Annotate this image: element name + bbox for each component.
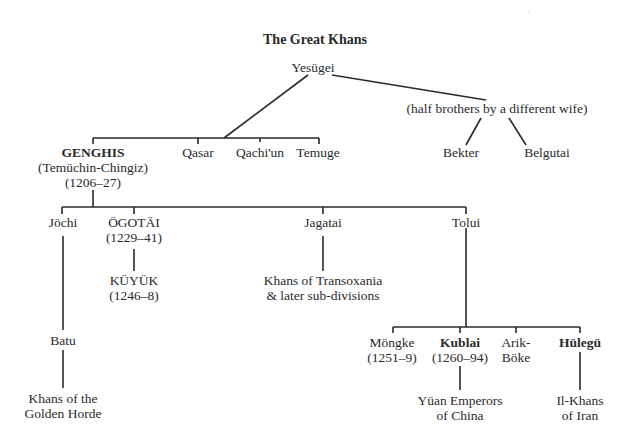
node-ogotai: ÖGOTÄI (1229–41) [106,215,162,245]
node-label: Möngke [367,335,417,350]
node-mongke: Möngke (1251–9) [367,335,417,365]
node-label: Bekter [443,145,479,160]
node-reign: (1229–41) [106,230,162,245]
node-label: GENGHIS [38,145,148,160]
node-label-line2: of Iran [556,408,603,423]
node-jagatai: Jagatai [304,215,341,230]
node-label: Qasar [182,145,213,160]
node-label: Hülegü [559,335,601,350]
node-half-brothers: (half brothers by a different wife) [407,101,588,116]
node-label: Tolui [452,215,480,230]
node-label: ÖGOTÄI [106,215,162,230]
node-label: (half brothers by a different wife) [407,101,588,116]
node-yuan: Yüan Emperors of China [417,393,502,423]
line-yesugei-to-half-brothers [332,75,486,100]
node-label-line2: of China [417,408,502,423]
node-label: KÜYÜK [109,273,159,288]
node-kuyuk: KÜYÜK (1246–8) [109,273,159,303]
node-label: Qachi'un [236,145,284,160]
line-yesugei-to-brothers [224,75,308,138]
node-alt-name: (Temüchin-Chingiz) [38,160,148,175]
node-label: Jagatai [304,215,341,230]
node-arik-boke: Arik- Böke [501,335,530,365]
node-label: Kublai [432,335,488,350]
node-reign: (1260–94) [432,350,488,365]
node-transoxania: Khans of Transoxania & later sub-divisio… [264,273,383,303]
node-label-line2: Golden Horde [25,406,102,421]
node-label-line2: & later sub-divisions [264,288,383,303]
line-to-bekter [466,118,481,145]
node-qachiun: Qachi'un [236,145,284,160]
node-label: Jöchi [49,215,78,230]
node-label-line1: Il-Khans [556,393,603,408]
node-golden-horde: Khans of the Golden Horde [25,391,102,421]
node-il-khans: Il-Khans of Iran [556,393,603,423]
node-label: Yesügei [292,60,335,75]
node-reign: (1206–27) [38,175,148,190]
scan-speck [528,11,529,12]
node-label-line1: Arik- [501,335,530,350]
node-label: Batu [50,333,76,348]
node-genghis: GENGHIS (Temüchin-Chingiz) (1206–27) [38,145,148,190]
node-label-line2: Böke [501,350,530,365]
node-label-line1: Yüan Emperors [417,393,502,408]
node-kublai: Kublai (1260–94) [432,335,488,365]
node-reign: (1251–9) [367,350,417,365]
node-reign: (1246–8) [109,288,159,303]
node-belgutai: Belgutai [524,145,570,160]
diagram-title: The Great Khans [263,32,367,48]
node-bekter: Bekter [443,145,479,160]
node-qasar: Qasar [182,145,213,160]
line-to-belgutai [509,118,526,145]
node-hulegu: Hülegü [559,335,601,350]
node-label-line1: Khans of the [25,391,102,406]
family-tree-diagram: The Great Khans Yesügei (half brothers b… [0,0,630,443]
node-batu: Batu [50,333,76,348]
node-tolui: Tolui [452,215,480,230]
node-label: Temuge [296,145,339,160]
node-label: Belgutai [524,145,570,160]
node-yesugei: Yesügei [292,60,335,75]
node-label-line1: Khans of Transoxania [264,273,383,288]
node-temuge: Temuge [296,145,339,160]
node-jochi: Jöchi [49,215,78,230]
